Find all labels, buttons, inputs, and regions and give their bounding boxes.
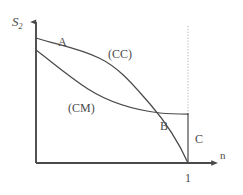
y-axis-label-subscript: 2 bbox=[19, 22, 23, 31]
x-axis-label: n bbox=[220, 150, 226, 161]
figure-container: S2 n 1 A B C (CC) (CM) bbox=[0, 0, 243, 195]
curve-label-cm: (CM) bbox=[68, 102, 95, 114]
point-label-a: A bbox=[58, 36, 67, 48]
point-label-b: B bbox=[160, 120, 168, 132]
x-axis-tick-label-1: 1 bbox=[185, 172, 191, 184]
point-label-c: C bbox=[195, 133, 203, 145]
y-axis-label: S2 bbox=[12, 15, 23, 31]
plot-canvas bbox=[0, 0, 243, 195]
curve-label-cc: (CC) bbox=[108, 48, 132, 60]
